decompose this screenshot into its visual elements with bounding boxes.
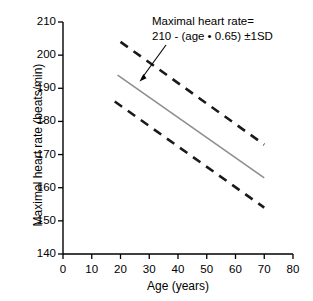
x-tick-label: 30 [143, 264, 156, 276]
x-tick-marks [63, 254, 293, 259]
data-series-group [115, 42, 265, 208]
x-tick-label: 10 [85, 264, 98, 276]
y-axis-title: Maximal heart rate (beats/min) [31, 45, 45, 245]
annotation-line-2: 210 - (age • 0.65) ±1SD [152, 29, 273, 44]
annotation-arrow [140, 45, 167, 82]
series-line-1 [121, 42, 265, 145]
x-tick-label: 0 [60, 264, 66, 276]
x-tick-label: 40 [172, 264, 185, 276]
x-tick-label: 20 [114, 264, 127, 276]
series-line-0 [118, 75, 265, 178]
x-tick-label: 70 [258, 264, 271, 276]
y-tick-label: 210 [18, 16, 56, 28]
x-axis-title: Age (years) [63, 279, 293, 293]
y-tick-marks [58, 22, 63, 254]
y-tick-label: 140 [18, 248, 56, 260]
annotation-line-1: Maximal heart rate= [152, 14, 273, 29]
series-line-2 [115, 102, 265, 208]
x-tick-label: 50 [200, 264, 213, 276]
axis-lines [63, 22, 293, 254]
x-tick-label: 60 [229, 264, 242, 276]
x-tick-label: 80 [287, 264, 300, 276]
chart-annotation: Maximal heart rate= 210 - (age • 0.65) ±… [152, 14, 273, 44]
chart-figure: 140150160170180190200210 010203040506070… [0, 0, 313, 301]
